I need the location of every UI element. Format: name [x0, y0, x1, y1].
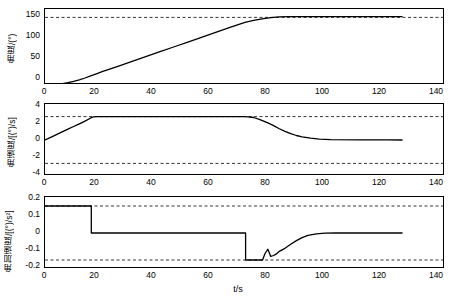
panel-velocity-plot: [44, 103, 444, 175]
panel-accel-xtick-140: 140: [425, 270, 447, 280]
panel-angle-xtick-140: 140: [425, 86, 447, 96]
panel-accel-xtick-80: 80: [256, 270, 274, 280]
panel-velocity-ytick-2: 2: [16, 116, 40, 126]
panel-velocity-ytick-4: 4: [16, 99, 40, 109]
panel-velocity-xtick-100: 100: [311, 177, 333, 187]
panel-accel-ytick-m01: -0.1: [10, 243, 40, 253]
panel-angle-ytick-100: 100: [16, 30, 40, 40]
panel-angle-xtick-100: 100: [311, 86, 333, 96]
panel-accel-ytick-01: 0.1: [12, 209, 40, 219]
panel-angle-ytick-150: 150: [16, 9, 40, 19]
x-axis-label: t/s: [218, 284, 258, 294]
panel-velocity-xtick-20: 20: [85, 177, 103, 187]
panel-angle-xtick-60: 60: [199, 86, 217, 96]
panel-accel-ytick-02: 0.2: [12, 192, 40, 202]
panel-velocity-xtick-40: 40: [142, 177, 160, 187]
panel-accel-plot: [44, 196, 444, 268]
panel-accel-xtick-0: 0: [36, 270, 52, 280]
panel-angle-xtick-0: 0: [36, 86, 52, 96]
panel-velocity-xtick-60: 60: [199, 177, 217, 187]
panel-angle-xtick-80: 80: [256, 86, 274, 96]
panel-angle-xtick-20: 20: [85, 86, 103, 96]
panel-velocity-ytick-0: 0: [16, 133, 40, 143]
panel-velocity-xtick-80: 80: [256, 177, 274, 187]
panel-velocity-xtick-0: 0: [36, 177, 52, 187]
panel-accel-xtick-60: 60: [199, 270, 217, 280]
panel-angle-ytick-0: 0: [16, 72, 40, 82]
panel-accel-svg: [45, 197, 444, 268]
panel-angle-ytick-50: 50: [16, 51, 40, 61]
panel-velocity-xtick-120: 120: [368, 177, 390, 187]
panel-accel-xtick-20: 20: [85, 270, 103, 280]
figure-container: 角度/(°) 150 100 50 0 0 20 40 60 80 100 12…: [0, 0, 457, 305]
panel-accel-xtick-40: 40: [142, 270, 160, 280]
panel-accel-xtick-120: 120: [368, 270, 390, 280]
panel-accel-xtick-100: 100: [311, 270, 333, 280]
panel-velocity-xtick-140: 140: [425, 177, 447, 187]
panel-accel-ytick-m02: -0.2: [10, 260, 40, 270]
panel-angle-svg: [45, 9, 444, 84]
panel-velocity-ytick-m2: -2: [14, 150, 40, 160]
panel-angle-plot: [44, 8, 444, 84]
panel-angle-xtick-120: 120: [368, 86, 390, 96]
panel-accel-ytick-0: 0: [12, 226, 40, 236]
panel-velocity-svg: [45, 104, 444, 175]
panel-velocity-ytick-m4: -4: [14, 167, 40, 177]
panel-angle-xtick-40: 40: [142, 86, 160, 96]
